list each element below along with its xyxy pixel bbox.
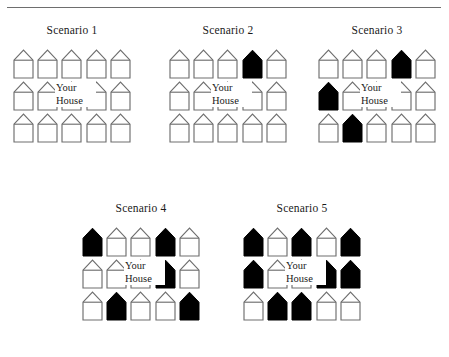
- scenario-1-row-3: [13, 113, 134, 145]
- scenario-4-house-r1c5-white: [179, 227, 200, 257]
- your-house-label-line1: Your: [56, 82, 96, 95]
- scenario-4-house-r1c1-black: [82, 227, 103, 257]
- scenario-2-house-r1c5-white: [266, 49, 287, 79]
- scenario-1-title: Scenario 1: [13, 24, 131, 37]
- scenario-4-house-r3c2-black: [106, 291, 127, 321]
- scenario-4-house-r1c4-black: [155, 227, 176, 257]
- scenario-1-house-r3c1-white: [13, 113, 34, 143]
- scenario-5-house-r3c5-white: [340, 291, 361, 321]
- scenario-2-house-r3c5-white: [266, 113, 287, 143]
- scenario-4-house-r3c1-white: [82, 291, 103, 321]
- scenario-2-row-1: [169, 49, 290, 81]
- scenario-5-house-r2c5-black: [340, 259, 361, 289]
- scenario-1-row-1: [13, 49, 134, 81]
- scenario-5-house-grid: YourHouse: [243, 227, 364, 323]
- your-house-label-line2: House: [361, 95, 401, 108]
- your-house-label-line1: Your: [361, 82, 401, 95]
- scenario-5-house-r3c3-black: [291, 291, 312, 321]
- scenario-3-house-r1c3-white: [366, 49, 387, 79]
- scenario-1-house-r3c5-white: [110, 113, 131, 143]
- scenario-1-house-r2c5-white: [110, 81, 131, 111]
- scenario-4-house-r1c3-white: [130, 227, 151, 257]
- scenario-5-house-r3c4-white: [316, 291, 337, 321]
- scenario-3-row-2: YourHouse: [318, 81, 439, 113]
- scenario-5-title: Scenario 5: [243, 202, 361, 215]
- scenario-2-house-r1c2-white: [193, 49, 214, 79]
- scenario-1-house-r1c1-white: [13, 49, 34, 79]
- scenario-5-house-r3c2-black: [267, 291, 288, 321]
- your-house-label-line2: House: [56, 95, 96, 108]
- scenario-5-your-house-label: YourHouse: [285, 260, 326, 285]
- scenario-2-house-r1c4-black: [242, 49, 263, 79]
- scenario-4-house-r3c3-white: [130, 291, 151, 321]
- scenario-3-house-grid: YourHouse: [318, 49, 439, 145]
- scenario-1-your-house-label: YourHouse: [55, 82, 96, 107]
- scenario-2-house-r3c1-white: [169, 113, 190, 143]
- scenario-2-title: Scenario 2: [169, 24, 287, 37]
- scenario-3-title: Scenario 3: [318, 24, 436, 37]
- scenario-4-your-house-label: YourHouse: [124, 260, 165, 285]
- scenario-2-house-r3c2-white: [193, 113, 214, 143]
- scenario-5-row-3: [243, 291, 364, 323]
- scenario-2-house-r2c5-white: [266, 81, 287, 111]
- scenario-1-house-r3c4-white: [86, 113, 107, 143]
- your-house-label-line2: House: [212, 95, 252, 108]
- your-house-label-line1: Your: [125, 260, 165, 273]
- scenario-3-house-r3c4-white: [391, 113, 412, 143]
- scenario-2-house-r1c3-white: [217, 49, 238, 79]
- scenario-2-house-r2c1-white: [169, 81, 190, 111]
- scenario-4-house-r2c1-white: [82, 259, 103, 289]
- scenario-3-row-3: [318, 113, 439, 145]
- scenario-4-house-grid: YourHouse: [82, 227, 203, 323]
- scenario-1-house-r2c1-white: [13, 81, 34, 111]
- scenario-2-house-r3c4-white: [242, 113, 263, 143]
- scenario-1-house-r1c2-white: [37, 49, 58, 79]
- scenario-5-house-r1c2-white: [267, 227, 288, 257]
- scenario-5-house-r3c1-white: [243, 291, 264, 321]
- scenario-3-house-r1c4-black: [391, 49, 412, 79]
- scenario-3-your-house-label: YourHouse: [360, 82, 401, 107]
- scenario-5-row-2: YourHouse: [243, 259, 364, 291]
- scenario-3-row-1: [318, 49, 439, 81]
- scenario-3-house-r3c2-black: [342, 113, 363, 143]
- scenario-1-row-2: YourHouse: [13, 81, 134, 113]
- your-house-label-line2: House: [286, 273, 326, 286]
- scenario-2-house-grid: YourHouse: [169, 49, 290, 145]
- top-horizontal-rule: [7, 7, 441, 8]
- scenario-1-house-r1c3-white: [61, 49, 82, 79]
- scenario-3-house-r1c5-white: [415, 49, 436, 79]
- scenario-3-house-r3c3-white: [366, 113, 387, 143]
- scenario-4-row-3: [82, 291, 203, 323]
- scenario-4-house-r3c5-black: [179, 291, 200, 321]
- scenario-3-house-r2c1-black: [318, 81, 339, 111]
- scenario-4-row-2: YourHouse: [82, 259, 203, 291]
- scenario-2-row-3: [169, 113, 290, 145]
- scenario-1-house-r1c4-white: [86, 49, 107, 79]
- scenario-1-house-r3c3-white: [61, 113, 82, 143]
- scenario-4-title: Scenario 4: [82, 202, 200, 215]
- scenario-3-house-r1c2-white: [342, 49, 363, 79]
- scenario-1-house-r1c5-white: [110, 49, 131, 79]
- scenario-2-house-r3c3-white: [217, 113, 238, 143]
- your-house-label-line2: House: [125, 273, 165, 286]
- scenario-4-house-r2c5-white: [179, 259, 200, 289]
- scenario-3-house-r1c1-white: [318, 49, 339, 79]
- scenario-5-row-1: [243, 227, 364, 259]
- scenario-4-house-r3c4-white: [155, 291, 176, 321]
- scenario-3-house-r2c5-white: [415, 81, 436, 111]
- scenario-5-house-r1c3-black: [291, 227, 312, 257]
- scenario-1-house-r3c2-white: [37, 113, 58, 143]
- scenario-1-house-grid: YourHouse: [13, 49, 134, 145]
- scenario-5-house-r1c5-black: [340, 227, 361, 257]
- scenario-4-house-r1c2-white: [106, 227, 127, 257]
- scenario-5-house-r2c1-black: [243, 259, 264, 289]
- your-house-label-line1: Your: [212, 82, 252, 95]
- scenario-5-house-r1c4-white: [316, 227, 337, 257]
- scenario-5-house-r1c1-black: [243, 227, 264, 257]
- scenario-2-row-2: YourHouse: [169, 81, 290, 113]
- scenario-3-house-r3c1-white: [318, 113, 339, 143]
- scenario-2-your-house-label: YourHouse: [211, 82, 252, 107]
- scenario-3-house-r3c5-white: [415, 113, 436, 143]
- your-house-label-line1: Your: [286, 260, 326, 273]
- scenario-4-row-1: [82, 227, 203, 259]
